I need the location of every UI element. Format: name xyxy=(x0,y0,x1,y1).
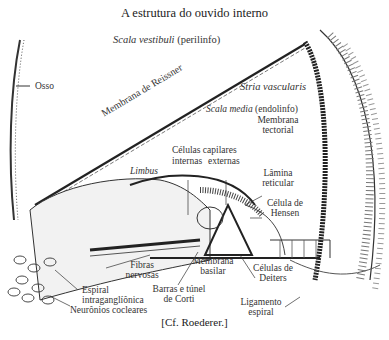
label-ligamento-espiral: Ligamentoespiral xyxy=(235,297,287,317)
label-fibras-nervosas: Fibrasnervosas xyxy=(122,260,162,280)
label-scala-media: Scala media (endolinfo) xyxy=(206,104,298,114)
label-membrana-basilar: Membranabasilar xyxy=(190,256,236,276)
label-osso: Osso xyxy=(35,81,54,91)
label-internas: internas xyxy=(172,156,202,166)
label-scala-vestibuli: Scala vestibuli (perilinfo) xyxy=(113,35,220,45)
label-celulas-capilares: Células capilares xyxy=(172,145,237,155)
label-celulas-deiters: Células deDeiters xyxy=(248,263,298,283)
label-barras-tunel-corti: Barras e túnelde Corti xyxy=(148,284,210,304)
label-neuronios-cocleares: Neurônios cocleares xyxy=(70,305,147,315)
label-lamina-reticular: Lâminareticular xyxy=(258,168,298,188)
inner-ear-diagram: A estrutura do ouvido interno xyxy=(0,0,389,340)
label-limbus: Limbus xyxy=(130,166,158,176)
credit: [Cf. Roederer.] xyxy=(0,316,389,328)
label-externas: externas xyxy=(208,156,240,166)
label-membrana-tectorial: Membranatectorial xyxy=(253,115,303,135)
label-celula-hensen: Célula deHensen xyxy=(262,198,308,218)
label-espiral: Espiralintraganglíônica xyxy=(82,285,144,305)
label-stria-vascularis: Stria vascularis xyxy=(240,82,306,92)
